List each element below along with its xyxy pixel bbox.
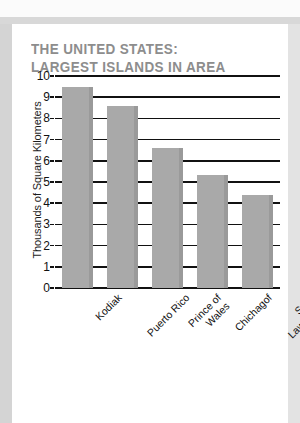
x-axis-label: Kodiak [93, 292, 124, 323]
chart-card: THE UNITED STATES: LARGEST ISLANDS IN AR… [12, 24, 288, 423]
y-axis-tick-label: 2 [43, 239, 50, 253]
plot-area: 012345678910 [55, 76, 280, 288]
page-right-gutter [288, 24, 300, 423]
page-top-band [0, 17, 300, 24]
x-axis-label: Chichagof [232, 292, 274, 334]
y-axis-tick-mark [50, 287, 54, 289]
bar [242, 195, 273, 288]
y-axis-tick-mark [50, 139, 54, 141]
y-axis-tick-mark [50, 181, 54, 183]
y-axis-tick-mark [50, 118, 54, 120]
y-axis-tick-label: 9 [43, 90, 50, 104]
y-axis-tick-mark [50, 224, 54, 226]
y-axis-title: Thousands of Square Kilometers [31, 80, 43, 280]
y-axis-tick-label: 8 [43, 111, 50, 125]
y-axis-tick-mark [50, 75, 54, 77]
bar [62, 87, 93, 288]
y-axis-tick-mark [50, 96, 54, 98]
plot-area-wrapper: Thousands of Square Kilometers 012345678… [12, 24, 288, 423]
page-top-margin [0, 0, 300, 17]
y-axis-tick-mark [50, 202, 54, 204]
y-axis-tick-label: 5 [43, 175, 50, 189]
bar [152, 148, 183, 288]
y-axis-tick-label: 1 [43, 260, 50, 274]
y-axis-tick-label: 6 [43, 154, 50, 168]
y-axis-tick-label: 0 [43, 281, 50, 295]
bar [107, 106, 138, 288]
y-axis-tick-mark [50, 245, 54, 247]
gridline [55, 75, 280, 77]
y-axis-tick-label: 4 [43, 196, 50, 210]
chart-page: THE UNITED STATES: LARGEST ISLANDS IN AR… [0, 0, 300, 423]
page-left-gutter [0, 24, 12, 423]
y-axis-tick-label: 7 [43, 133, 50, 147]
y-axis-tick-mark [50, 160, 54, 162]
y-axis-tick-mark [50, 266, 54, 268]
y-axis-tick-label: 10 [37, 69, 50, 83]
x-axis-label: Prince of Wales [186, 292, 232, 338]
bar [197, 175, 228, 288]
y-axis-tick-label: 3 [43, 217, 50, 231]
x-axis-label: Puerto Rico [145, 292, 192, 339]
